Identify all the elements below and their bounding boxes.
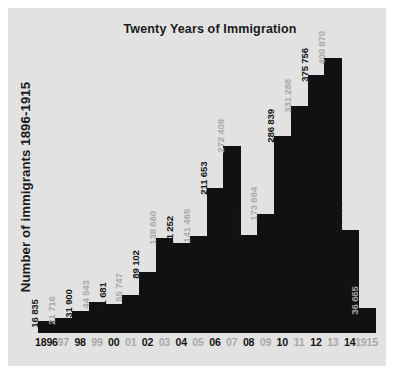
bar-1913 [324,58,341,333]
bar-1904 [173,243,190,333]
bar-1897 [55,318,72,333]
bar-value-label-1914: 150 484 [334,203,344,237]
bar-value-label-1901: 55 747 [115,273,125,301]
x-tick-1909: 09 [257,335,274,349]
bar-value-label-1909: 173 694 [250,187,260,221]
x-tick-1913: 13 [324,335,341,349]
plot-area: 16 83521 71631 90044 54341 68155 74789 1… [38,52,375,333]
bar-value-label-1903: 138 660 [148,211,158,245]
bar-value-label-1904: 131 252 [165,216,175,250]
bar-value-label-1897: 21 716 [47,296,57,324]
x-tick-1907: 07 [223,335,240,349]
chart-title: Twenty Years of Immigration [8,22,386,36]
x-tick-1901: 01 [122,335,139,349]
bar-value-label-1900: 41 681 [98,282,108,310]
y-axis-label-container: Number of immigrants 1896-1915 [12,54,38,320]
bar-value-label-1912: 375 756 [300,48,310,82]
x-tick-1910: 10 [274,335,291,349]
bar-1902 [139,272,156,333]
bar-value-label-1911: 331 288 [283,79,293,113]
x-tick-1915: 1915 [352,335,381,349]
x-tick-1905: 05 [190,335,207,349]
chart-figure: Twenty Years of Immigration Number of im… [8,8,386,366]
bar-1906 [207,188,224,333]
bar-1909 [257,214,274,333]
bar-value-label-1905: 141 465 [182,209,192,243]
bar-1901 [122,295,139,333]
y-axis-label: Number of immigrants 1896-1915 [18,82,33,292]
bar-1910 [274,136,291,333]
bar-value-label-1899: 44 543 [81,280,91,308]
bar-1914 [341,230,358,333]
x-tick-1897: 97 [55,335,72,349]
bar-value-label-1915: 36 665 [351,286,361,314]
x-tick-1911: 11 [291,335,308,349]
x-tick-1903: 03 [156,335,173,349]
bar-value-label-1910: 286 839 [266,109,276,143]
x-tick-1902: 02 [139,335,156,349]
x-axis-tick-labels: 1896979899000102030405060708091011121314… [38,335,375,353]
x-tick-1900: 00 [105,335,122,349]
x-tick-1908: 08 [240,335,257,349]
x-tick-1912: 12 [308,335,325,349]
bar-value-label-1913: 400 870 [317,31,327,65]
bar-1905 [190,236,207,333]
x-tick-1906: 06 [207,335,224,349]
bar-1903 [156,238,173,333]
bar-value-label-1906: 211 653 [199,162,209,195]
bar-1911 [291,106,308,333]
bar-value-label-1907: 272 409 [216,119,226,153]
x-tick-1904: 04 [173,335,190,349]
bar-value-label-1896: 16 835 [30,299,40,327]
bar-1898 [72,311,89,333]
bar-value-label-1902: 89 102 [132,250,142,278]
x-tick-1899: 99 [89,335,106,349]
x-tick-1898: 98 [72,335,89,349]
bar-1908 [240,235,257,333]
bar-1912 [308,75,325,333]
bar-value-label-1908: 143 326 [233,208,243,242]
bar-1915 [358,308,375,333]
bar-value-label-1898: 31 900 [64,289,74,317]
